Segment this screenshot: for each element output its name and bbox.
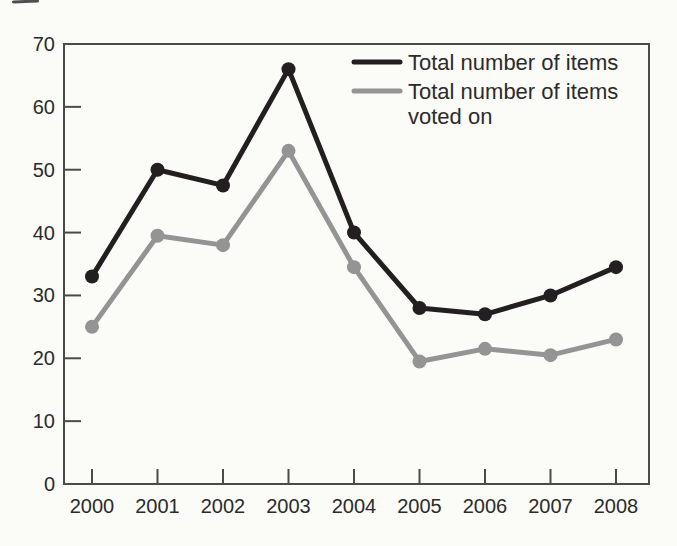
x-tick-label: 2007: [528, 495, 573, 517]
x-tick-label: 2001: [135, 495, 180, 517]
data-point-marker: [151, 163, 165, 177]
y-tick-label: 40: [33, 222, 55, 244]
legend-label: voted on: [408, 104, 492, 129]
data-point-marker: [347, 260, 361, 274]
x-tick-label: 2005: [397, 495, 442, 517]
data-point-marker: [609, 260, 623, 274]
line-chart: 0102030405060702000200120022003200420052…: [0, 0, 677, 546]
y-tick-label: 10: [33, 410, 55, 432]
y-tick-label: 0: [44, 473, 55, 495]
data-point-marker: [282, 62, 296, 76]
data-point-marker: [544, 348, 558, 362]
x-tick-label: 2000: [70, 495, 115, 517]
x-tick-label: 2008: [594, 495, 639, 517]
x-tick-label: 2003: [266, 495, 311, 517]
data-point-marker: [85, 320, 99, 334]
legend-label: Total number of items: [408, 79, 618, 104]
data-point-marker: [85, 270, 99, 284]
x-tick-label: 2004: [332, 495, 377, 517]
legend-label: Total number of items: [408, 50, 618, 75]
y-tick-label: 50: [33, 159, 55, 181]
y-tick-label: 30: [33, 284, 55, 306]
scanned-page: 0102030405060702000200120022003200420052…: [0, 0, 677, 546]
data-point-marker: [478, 307, 492, 321]
y-tick-label: 70: [33, 33, 55, 55]
data-point-marker: [413, 354, 427, 368]
data-point-marker: [609, 332, 623, 346]
x-tick-label: 2006: [463, 495, 508, 517]
data-point-marker: [544, 288, 558, 302]
data-point-marker: [282, 144, 296, 158]
data-point-marker: [216, 238, 230, 252]
data-point-marker: [347, 226, 361, 240]
data-point-marker: [216, 178, 230, 192]
data-point-marker: [151, 229, 165, 243]
y-tick-label: 60: [33, 96, 55, 118]
data-point-marker: [478, 342, 492, 356]
series-line: [92, 69, 616, 314]
y-tick-label: 20: [33, 347, 55, 369]
data-point-marker: [413, 301, 427, 315]
series-line: [92, 151, 616, 362]
x-tick-label: 2002: [201, 495, 246, 517]
